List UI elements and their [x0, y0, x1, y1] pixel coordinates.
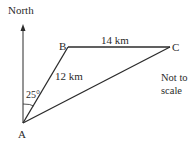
- point-c-label: C: [172, 41, 179, 53]
- not-to-scale-note-line1: Not to: [161, 71, 188, 84]
- not-to-scale-note-line2: scale: [161, 84, 182, 97]
- north-arrow-icon: [21, 24, 26, 31]
- point-a-label: A: [18, 128, 26, 140]
- point-b-label: B: [59, 40, 66, 52]
- angle-arc: [23, 104, 34, 106]
- edge-bc-length-label: 14 km: [101, 34, 129, 46]
- north-label: North: [8, 4, 34, 16]
- angle-label: 25°: [26, 89, 40, 101]
- edge-ab-length-label: 12 km: [55, 70, 83, 82]
